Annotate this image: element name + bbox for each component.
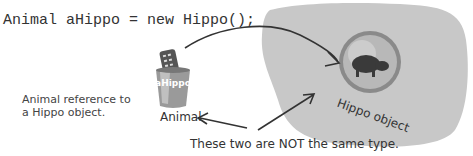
reference-type-label: Animal bbox=[160, 110, 202, 124]
code-line: Animal aHippo = new Hippo(); bbox=[3, 12, 255, 29]
hippo-object-icon bbox=[339, 31, 401, 93]
reference-note-line: Animal reference to bbox=[22, 93, 131, 106]
cup-variable-label: aHippo bbox=[155, 78, 191, 88]
caption-arrow-left bbox=[200, 118, 247, 128]
caption: These two are NOT the same type. bbox=[190, 137, 399, 151]
reference-note-line: a Hippo object. bbox=[22, 106, 131, 119]
reference-note: Animal reference to a Hippo object. bbox=[22, 93, 131, 119]
